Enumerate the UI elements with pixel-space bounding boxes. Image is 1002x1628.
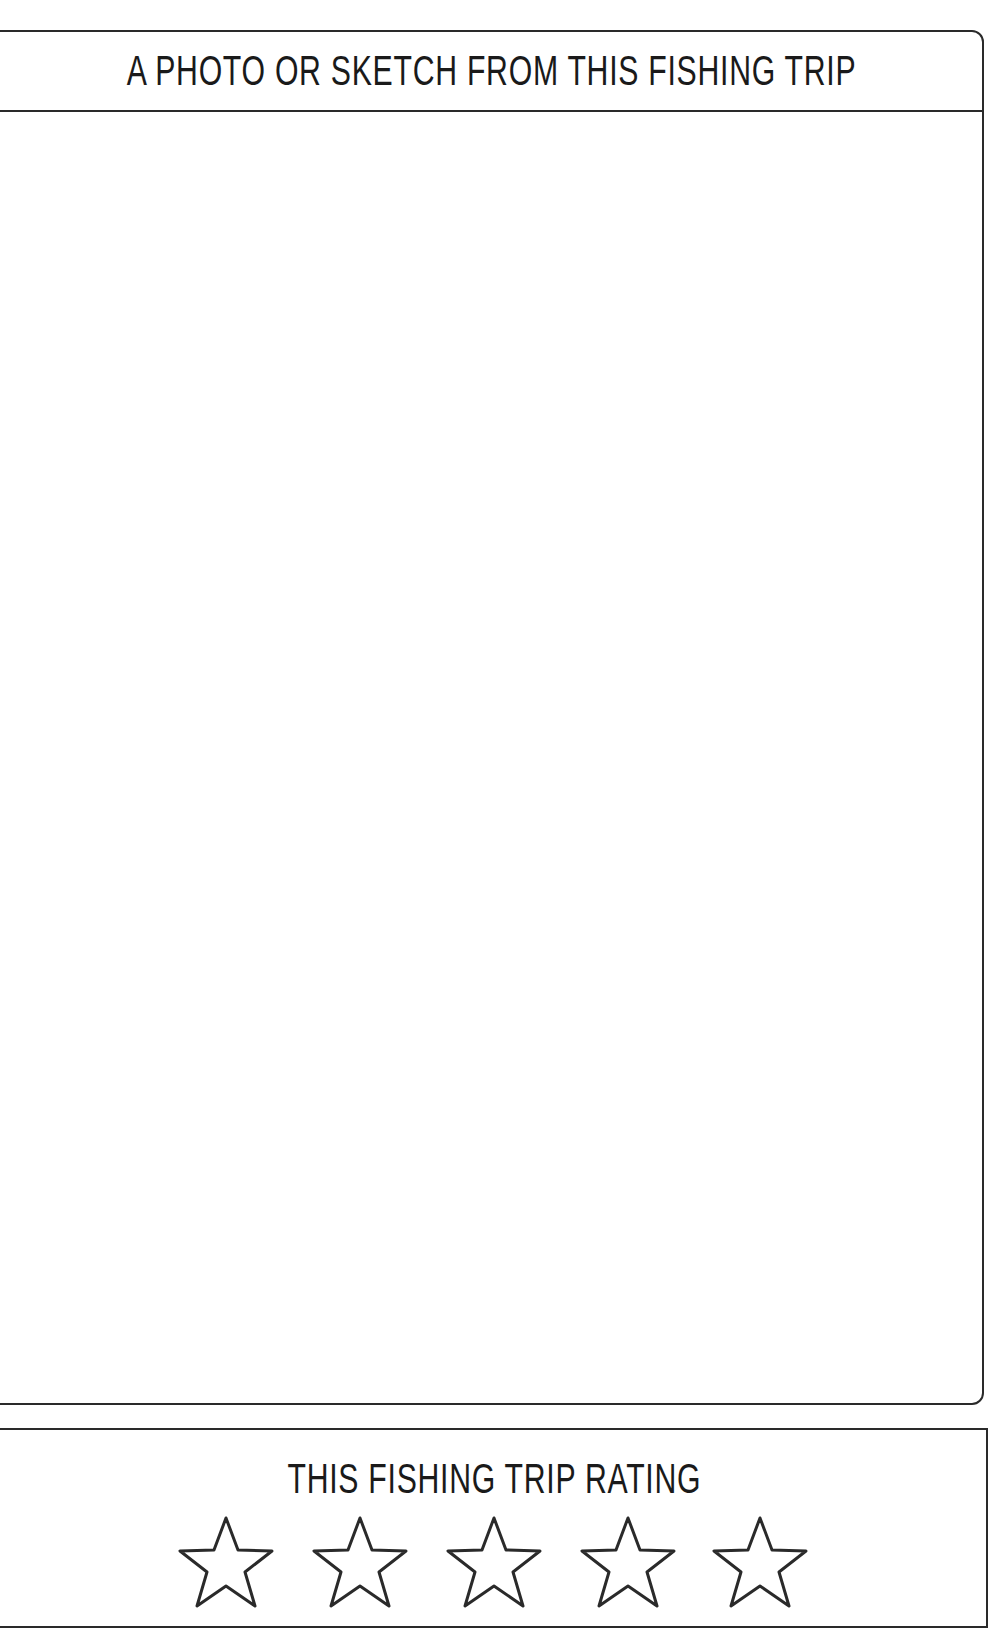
star-2-icon[interactable] (310, 1514, 410, 1610)
star-rating (0, 1514, 986, 1614)
photo-sketch-area[interactable] (0, 112, 982, 1403)
trip-rating-title: THIS FISHING TRIP RATING (287, 1458, 701, 1500)
star-1-icon[interactable] (176, 1514, 276, 1610)
trip-rating-box: THIS FISHING TRIP RATING (0, 1428, 988, 1628)
photo-sketch-header: A PHOTO OR SKETCH FROM THIS FISHING TRIP (0, 32, 982, 112)
star-4-icon[interactable] (578, 1514, 678, 1610)
star-5-icon[interactable] (710, 1514, 810, 1610)
photo-sketch-title: A PHOTO OR SKETCH FROM THIS FISHING TRIP (127, 50, 856, 92)
photo-sketch-box: A PHOTO OR SKETCH FROM THIS FISHING TRIP (0, 30, 984, 1405)
trip-rating-header: THIS FISHING TRIP RATING (0, 1458, 986, 1500)
star-3-icon[interactable] (444, 1514, 544, 1610)
